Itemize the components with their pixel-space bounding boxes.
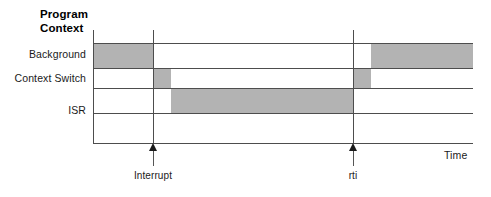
interrupt-arrow-icon — [149, 143, 157, 151]
interrupt-event-label: Interrupt — [103, 170, 203, 181]
context-axis-line — [93, 30, 94, 144]
rti-arrow-icon — [349, 143, 357, 151]
row-label-background: Background — [0, 48, 86, 60]
grid-line-background-top — [93, 43, 473, 44]
figure-heading-line2: Context — [40, 22, 160, 36]
grid-line-background-bottom — [93, 68, 473, 69]
row-label-isr: ISR — [0, 104, 86, 116]
bar-isr-active — [171, 88, 353, 113]
interrupt-arrow-shaft — [153, 150, 154, 166]
event-line-interrupt — [153, 30, 154, 144]
rti-event-label: rti — [303, 170, 403, 181]
event-line-rti — [353, 30, 354, 144]
row-label-context-switch: Context Switch — [0, 72, 86, 84]
bar-background-pre-interrupt — [93, 43, 153, 68]
rti-arrow-shaft — [353, 150, 354, 166]
bar-context-switch-entry — [153, 68, 171, 88]
figure-heading: Program Context — [40, 8, 160, 35]
bar-context-switch-return — [353, 68, 371, 88]
timing-diagram-figure: Program Context Background Context Switc… — [0, 0, 491, 197]
figure-heading-line1: Program — [40, 8, 160, 22]
grid-line-isr-bottom — [93, 113, 473, 114]
time-axis-label: Time — [444, 149, 467, 161]
grid-line-context-switch-bottom — [93, 88, 473, 89]
bar-background-post-rti — [371, 43, 473, 68]
